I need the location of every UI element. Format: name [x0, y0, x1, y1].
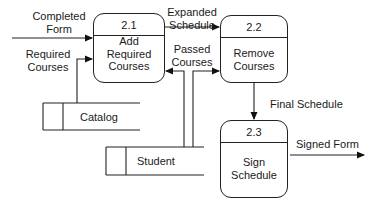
flow-label-passed-courses: Passed Courses — [164, 43, 220, 68]
process-2-3[interactable]: 2.3 Sign Schedule — [220, 120, 288, 198]
data-store-student[interactable]: Student — [137, 155, 175, 167]
flow-label-required-courses: Required Courses — [20, 48, 76, 73]
flow-required-courses — [77, 59, 92, 103]
flow-label-signed-form: Signed Form — [296, 138, 359, 151]
process-id: 2.2 — [221, 16, 287, 38]
flow-passed-courses-to-2-2 — [193, 71, 219, 147]
process-name: Sign Schedule — [221, 156, 287, 181]
flow-label-final-schedule: Final Schedule — [270, 98, 343, 111]
process-2-1[interactable]: 2.1 Add Required Courses — [93, 13, 165, 83]
process-id: 2.3 — [221, 121, 287, 143]
process-id: 2.1 — [94, 14, 164, 36]
data-store-catalog[interactable]: Catalog — [80, 111, 118, 123]
flow-label-expanded-schedule: Expanded Schedule — [162, 6, 222, 31]
process-name: Add Required Courses — [94, 35, 164, 73]
flow-passed-courses-to-2-1 — [166, 71, 184, 147]
flow-label-completed-form: Completed Form — [24, 10, 94, 35]
process-2-2[interactable]: 2.2 Remove Courses — [220, 15, 288, 83]
process-name: Remove Courses — [221, 47, 287, 72]
